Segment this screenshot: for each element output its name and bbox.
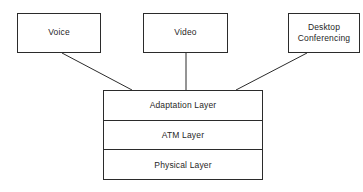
- source-node-voice-label: Voice: [48, 27, 70, 38]
- protocol-stack: Adaptation Layer ATM Layer Physical Laye…: [103, 90, 263, 180]
- source-node-desktop-conferencing: Desktop Conferencing: [288, 13, 360, 53]
- stack-layer-adaptation: Adaptation Layer: [104, 91, 262, 121]
- stack-layer-adaptation-label: Adaptation Layer: [150, 100, 217, 110]
- stack-layer-atm: ATM Layer: [104, 121, 262, 151]
- stack-layer-atm-label: ATM Layer: [162, 130, 204, 140]
- connector-voice-to-stack: [62, 53, 132, 90]
- stack-layer-physical-label: Physical Layer: [154, 160, 211, 170]
- source-node-desktop-conferencing-label: Desktop Conferencing: [298, 22, 350, 44]
- stack-layer-physical: Physical Layer: [104, 150, 262, 179]
- source-node-video-label: Video: [174, 27, 196, 38]
- source-node-video: Video: [143, 13, 228, 53]
- connector-desktop-to-stack: [236, 53, 307, 90]
- source-node-voice: Voice: [17, 13, 101, 53]
- diagram-canvas: Voice Video Desktop Conferencing Adaptat…: [0, 0, 363, 192]
